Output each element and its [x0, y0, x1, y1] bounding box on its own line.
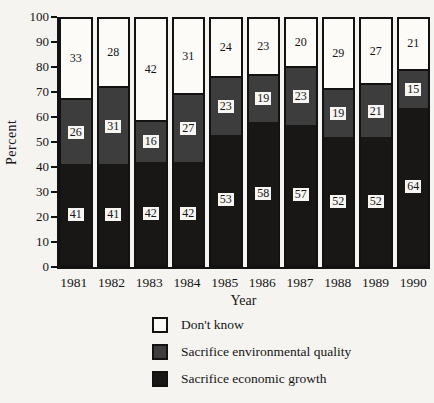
segment-dont-know: 33 — [61, 19, 91, 100]
segment-economic-growth: 42 — [136, 162, 166, 265]
segment-dont-know: 24 — [211, 19, 241, 78]
legend-label: Sacrifice economic growth — [181, 371, 326, 387]
bar-1985: 242353 — [209, 17, 243, 267]
segment-dont-know: 21 — [399, 19, 429, 71]
legend-item-2: Sacrifice economic growth — [152, 371, 351, 386]
segment-value-label: 21 — [368, 105, 384, 118]
y-tick-label: 0 — [15, 259, 49, 274]
y-tick-mark — [51, 191, 57, 193]
x-tick-label-1981: 1981 — [57, 275, 91, 291]
x-tick-label-1982: 1982 — [95, 275, 129, 291]
legend-item-1: Sacrifice environmental quality — [152, 344, 351, 359]
segment-value-label: 33 — [70, 52, 82, 65]
bar-1988: 291952 — [322, 17, 356, 267]
segment-dont-know: 29 — [324, 19, 354, 90]
bar-1986: 231958 — [247, 17, 281, 267]
segment-dont-know: 23 — [249, 19, 279, 76]
x-tick-label-1989: 1989 — [359, 275, 393, 291]
y-tick-mark — [51, 66, 57, 68]
y-tick-mark — [51, 16, 57, 18]
y-tick-label: 80 — [15, 59, 49, 74]
segment-value-label: 29 — [332, 47, 344, 60]
segment-value-label: 23 — [218, 100, 234, 113]
segment-economic-growth: 41 — [99, 164, 129, 265]
segment-value-label: 20 — [295, 36, 307, 49]
segment-economic-growth: 53 — [211, 135, 241, 265]
bar-1989: 272152 — [359, 17, 393, 267]
segment-value-label: 31 — [182, 50, 194, 63]
segment-value-label: 42 — [180, 207, 196, 220]
bar-1987: 202357 — [284, 17, 318, 267]
x-tick-label-1990: 1990 — [396, 275, 430, 291]
legend-label: Don't know — [181, 317, 244, 333]
bar-1983: 421642 — [134, 17, 168, 267]
y-tick-label: 30 — [15, 184, 49, 199]
segment-value-label: 21 — [407, 37, 419, 50]
segment-value-label: 41 — [68, 208, 84, 221]
segment-economic-growth: 58 — [249, 122, 279, 265]
segment-value-label: 52 — [330, 195, 346, 208]
y-tick-mark — [51, 166, 57, 168]
segment-economic-growth: 57 — [286, 125, 316, 265]
segment-value-label: 53 — [218, 193, 234, 206]
stacked-bar-chart-figure: Percent 1009080706050403020100 332641283… — [0, 0, 434, 403]
segment-dont-know: 20 — [286, 19, 316, 68]
segment-environmental-quality: 21 — [361, 85, 391, 137]
segment-environmental-quality: 23 — [211, 78, 241, 135]
bar-1981: 332641 — [59, 17, 93, 267]
segment-value-label: 16 — [143, 135, 159, 148]
x-tick-label-1988: 1988 — [321, 275, 355, 291]
legend-swatch — [152, 371, 168, 387]
y-tick-label: 40 — [15, 159, 49, 174]
x-tick-label-1985: 1985 — [208, 275, 242, 291]
segment-value-label: 27 — [180, 122, 196, 135]
legend-swatch — [152, 317, 168, 333]
segment-dont-know: 42 — [136, 19, 166, 122]
segment-environmental-quality: 31 — [99, 88, 129, 164]
y-tick-mark — [51, 116, 57, 118]
x-tick-label-1983: 1983 — [132, 275, 166, 291]
segment-value-label: 64 — [405, 180, 421, 193]
segment-value-label: 28 — [107, 46, 119, 59]
legend-label: Sacrifice environmental quality — [181, 344, 351, 360]
segment-economic-growth: 41 — [61, 164, 91, 265]
segment-value-label: 23 — [293, 90, 309, 103]
y-tick-mark — [51, 266, 57, 268]
x-tick-label-1984: 1984 — [170, 275, 204, 291]
segment-value-label: 41 — [105, 208, 121, 221]
segment-value-label: 42 — [145, 63, 157, 76]
y-tick-label: 90 — [15, 34, 49, 49]
segment-environmental-quality: 27 — [174, 95, 204, 161]
y-tick-mark — [51, 91, 57, 93]
segment-environmental-quality: 23 — [286, 68, 316, 125]
segment-value-label: 15 — [405, 83, 421, 96]
y-tick-mark — [51, 216, 57, 218]
y-tick-mark — [51, 41, 57, 43]
bar-1984: 312742 — [172, 17, 206, 267]
segment-value-label: 31 — [105, 120, 121, 133]
bar-1982: 283141 — [97, 17, 131, 267]
x-axis-title: Year — [57, 293, 430, 309]
segment-dont-know: 28 — [99, 19, 129, 88]
y-tick-label: 70 — [15, 84, 49, 99]
y-tick-mark — [51, 141, 57, 143]
bar-1990: 211564 — [397, 17, 431, 267]
segment-value-label: 58 — [255, 187, 271, 200]
segment-value-label: 24 — [220, 41, 232, 54]
segment-economic-growth: 52 — [361, 137, 391, 265]
segment-environmental-quality: 19 — [249, 76, 279, 123]
segment-environmental-quality: 15 — [399, 71, 429, 108]
segment-economic-growth: 42 — [174, 162, 204, 265]
x-tick-labels: 1981198219831984198519861987198819891990 — [57, 275, 430, 291]
x-tick-label-1986: 1986 — [246, 275, 280, 291]
segment-value-label: 27 — [370, 45, 382, 58]
segment-value-label: 19 — [255, 92, 271, 105]
y-tick-label: 20 — [15, 209, 49, 224]
y-tick-mark — [51, 241, 57, 243]
segment-value-label: 26 — [68, 126, 84, 139]
legend-swatch — [152, 344, 168, 360]
segment-environmental-quality: 16 — [136, 122, 166, 161]
segment-value-label: 23 — [257, 40, 269, 53]
y-tick-label: 50 — [15, 134, 49, 149]
segment-value-label: 42 — [143, 207, 159, 220]
